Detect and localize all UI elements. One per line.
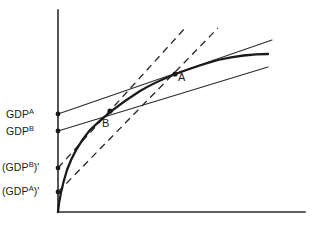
diagram-canvas — [0, 0, 321, 231]
label-gdp-a-prime-close: )' — [34, 185, 40, 197]
label-gdp-b-prime: (GDPB)' — [2, 162, 39, 173]
tangent-line-point-a — [58, 28, 218, 192]
marker-point-b — [107, 108, 112, 113]
label-point-b: B — [102, 118, 109, 129]
secant-line-gdp-b — [58, 67, 268, 131]
marker-gdp-b-prime-intercept — [56, 166, 61, 171]
marker-point-a — [172, 71, 177, 76]
label-gdp-a-base: GDP — [6, 108, 29, 120]
label-gdp-b-superscript: B — [29, 124, 34, 133]
label-gdp-a-superscript: A — [29, 107, 34, 116]
marker-gdp-a-prime-intercept — [56, 190, 61, 195]
marker-gdp-a-intercept — [56, 112, 61, 117]
label-gdp-a-prime: (GDPA)' — [2, 186, 39, 197]
label-gdp-b-base: GDP — [6, 125, 29, 137]
economics-diagram-figure: GDPA GDPB (GDPB)' (GDPA)' A B — [0, 0, 321, 231]
label-gdp-a: GDPA — [6, 109, 34, 120]
label-gdp-b-prime-open: (GDP — [2, 161, 29, 173]
marker-gdp-b-intercept — [56, 129, 61, 134]
label-point-a: A — [178, 72, 185, 83]
label-gdp-b: GDPB — [6, 126, 34, 137]
label-gdp-a-prime-open: (GDP — [2, 185, 29, 197]
label-gdp-b-prime-close: )' — [34, 161, 40, 173]
